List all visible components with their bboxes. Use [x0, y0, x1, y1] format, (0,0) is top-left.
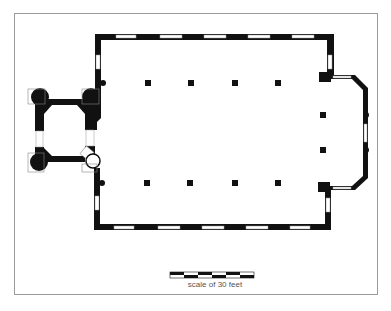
chancel-walls	[318, 72, 368, 192]
windows	[36, 35, 367, 229]
nave-walls	[94, 34, 334, 230]
floor-plan	[0, 0, 391, 311]
scale-bar	[170, 272, 254, 278]
columns	[99, 80, 369, 186]
scale-label: scale of 30 feet	[160, 280, 270, 289]
